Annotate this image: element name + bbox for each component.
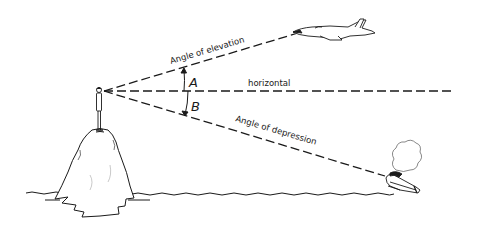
label-angle-of-depression: Angle of depression bbox=[234, 113, 318, 146]
airplane bbox=[293, 19, 375, 40]
label-angle-a: A bbox=[188, 75, 198, 90]
observer-person bbox=[96, 88, 103, 131]
label-angle-of-elevation: Angle of elevation bbox=[169, 34, 246, 65]
boat bbox=[386, 140, 422, 193]
island bbox=[55, 129, 134, 218]
label-angle-b: B bbox=[191, 99, 200, 114]
smoke-cloud bbox=[392, 140, 421, 171]
angle-arcs bbox=[181, 68, 188, 116]
elevation-depression-diagram: Angle of elevation horizontal Angle of d… bbox=[0, 0, 483, 233]
label-horizontal: horizontal bbox=[248, 78, 290, 88]
line-of-sight-depression bbox=[104, 91, 385, 176]
